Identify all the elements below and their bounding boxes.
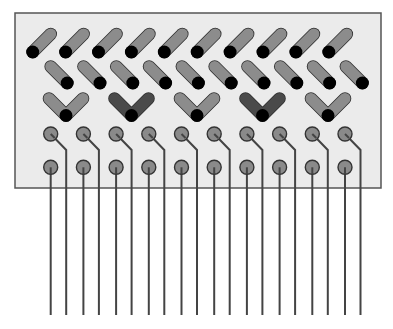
contact-dot-icon [158, 46, 171, 59]
contact-dot-icon [323, 77, 336, 90]
contact-dot-icon [191, 109, 204, 122]
contact-dot-icon [224, 46, 237, 59]
contact-dot-icon [322, 46, 335, 59]
contact-dot-icon [126, 77, 139, 90]
diagram-canvas [0, 0, 393, 329]
contact-dot-icon [26, 46, 39, 59]
contact-dot-icon [258, 77, 271, 90]
contact-dot-icon [125, 46, 138, 59]
contact-dot-icon [290, 77, 303, 90]
contact-dot-icon [59, 46, 72, 59]
contact-dot-icon [356, 77, 369, 90]
contact-dot-icon [61, 77, 74, 90]
contact-dot-icon [125, 109, 138, 122]
contact-dot-icon [94, 77, 107, 90]
contact-dot-icon [92, 46, 105, 59]
contact-dot-icon [289, 46, 302, 59]
contact-dot-icon [257, 46, 270, 59]
contact-dot-icon [159, 77, 172, 90]
contact-dot-icon [60, 109, 73, 122]
contact-dot-icon [192, 77, 205, 90]
contact-dot-icon [322, 109, 335, 122]
contact-dot-icon [225, 77, 238, 90]
pin-connector-diagram [0, 0, 393, 329]
contact-dot-icon [191, 46, 204, 59]
contact-dot-icon [256, 109, 269, 122]
